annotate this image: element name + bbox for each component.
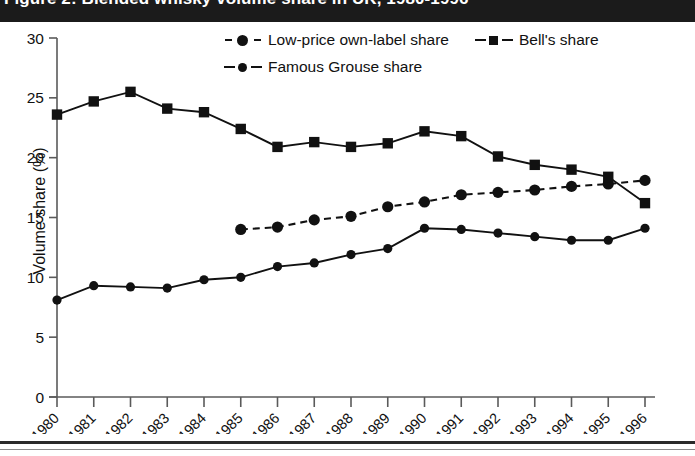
data-point[interactable] bbox=[162, 103, 172, 113]
x-tick-label: 1981 bbox=[65, 410, 99, 434]
data-point[interactable] bbox=[236, 273, 245, 282]
x-tick-label: 1993 bbox=[506, 410, 540, 434]
x-tick-label: 1984 bbox=[175, 410, 209, 434]
data-point[interactable] bbox=[639, 175, 650, 186]
x-tick-label: 1983 bbox=[138, 410, 172, 434]
data-point[interactable] bbox=[52, 295, 61, 304]
data-point[interactable] bbox=[529, 184, 540, 195]
data-point[interactable] bbox=[640, 198, 650, 208]
bottom-divider bbox=[0, 441, 695, 444]
data-point[interactable] bbox=[235, 224, 246, 235]
data-point[interactable] bbox=[383, 244, 392, 253]
data-point[interactable] bbox=[493, 151, 503, 161]
x-tick-label: 1990 bbox=[395, 410, 429, 434]
chart-canvas: 051015202530 198019811982198319841985198… bbox=[0, 22, 695, 434]
figure-title-bar: Figure 2: Blended whisky volume share in… bbox=[0, 0, 695, 22]
data-point[interactable] bbox=[89, 96, 99, 106]
data-point[interactable] bbox=[346, 142, 356, 152]
data-point[interactable] bbox=[345, 211, 356, 222]
data-point[interactable] bbox=[383, 138, 393, 148]
x-tick-label: 1988 bbox=[322, 410, 356, 434]
data-point[interactable] bbox=[420, 224, 429, 233]
data-point[interactable] bbox=[272, 221, 283, 232]
data-point[interactable] bbox=[419, 126, 429, 136]
x-axis-ticks: 1980198119821983198419851986198719881989… bbox=[28, 397, 650, 434]
data-point[interactable] bbox=[456, 189, 467, 200]
data-point[interactable] bbox=[566, 181, 577, 192]
x-tick-label: 1991 bbox=[432, 410, 466, 434]
bottom-divider-secondary bbox=[0, 449, 695, 450]
plot-area: Volume share (%) 051015202530 1980198119… bbox=[0, 22, 695, 434]
data-point[interactable] bbox=[309, 137, 319, 147]
y-tick-label: 25 bbox=[27, 89, 44, 106]
x-tick-label: 1986 bbox=[248, 410, 282, 434]
x-tick-label: 1980 bbox=[28, 410, 62, 434]
x-tick-label: 1989 bbox=[359, 410, 393, 434]
data-point[interactable] bbox=[457, 225, 466, 234]
data-point[interactable] bbox=[456, 131, 466, 141]
data-point[interactable] bbox=[310, 258, 319, 267]
data-point[interactable] bbox=[603, 172, 613, 182]
data-point[interactable] bbox=[236, 124, 246, 134]
data-point[interactable] bbox=[419, 196, 430, 207]
y-tick-label: 5 bbox=[35, 329, 44, 346]
x-tick-label: 1987 bbox=[285, 410, 319, 434]
data-point[interactable] bbox=[640, 224, 649, 233]
data-point[interactable] bbox=[199, 275, 208, 284]
y-tick-label: 0 bbox=[35, 389, 44, 406]
x-tick-label: 1996 bbox=[616, 410, 650, 434]
data-point[interactable] bbox=[346, 250, 355, 259]
y-tick-label: 30 bbox=[27, 30, 45, 47]
figure-body: Low-price own-label share Bell's share F… bbox=[0, 22, 695, 434]
data-point[interactable] bbox=[163, 284, 172, 293]
y-tick-label: 15 bbox=[27, 209, 44, 226]
data-point[interactable] bbox=[492, 187, 503, 198]
y-axis-ticks: 051015202530 bbox=[27, 30, 57, 406]
x-tick-label: 1995 bbox=[579, 410, 613, 434]
data-point[interactable] bbox=[567, 236, 576, 245]
data-point[interactable] bbox=[566, 164, 576, 174]
series-line-2 bbox=[57, 228, 645, 300]
data-point[interactable] bbox=[52, 109, 62, 119]
data-point[interactable] bbox=[273, 262, 282, 271]
figure-title: Figure 2: Blended whisky volume share in… bbox=[4, 0, 469, 9]
y-tick-label: 10 bbox=[27, 269, 45, 286]
x-tick-label: 1982 bbox=[101, 410, 135, 434]
x-tick-label: 1992 bbox=[469, 410, 503, 434]
data-point[interactable] bbox=[604, 236, 613, 245]
data-point[interactable] bbox=[125, 87, 135, 97]
y-tick-label: 20 bbox=[27, 149, 45, 166]
data-series bbox=[52, 87, 651, 305]
series-line-0 bbox=[241, 180, 645, 229]
data-point[interactable] bbox=[530, 232, 539, 241]
data-point[interactable] bbox=[126, 282, 135, 291]
x-tick-label: 1994 bbox=[542, 410, 576, 434]
data-point[interactable] bbox=[309, 214, 320, 225]
data-point[interactable] bbox=[382, 201, 393, 212]
data-point[interactable] bbox=[493, 228, 502, 237]
data-point[interactable] bbox=[199, 107, 209, 117]
data-point[interactable] bbox=[530, 160, 540, 170]
data-point[interactable] bbox=[89, 281, 98, 290]
data-point[interactable] bbox=[272, 142, 282, 152]
x-tick-label: 1985 bbox=[212, 410, 246, 434]
